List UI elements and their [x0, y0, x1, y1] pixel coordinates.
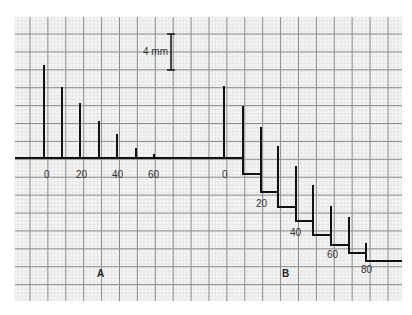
tick-label-b-80: 80	[361, 265, 372, 275]
tick-label-b-0: 0	[222, 170, 228, 180]
tick-label-a-0: 0	[44, 170, 50, 180]
figure: 4 mm 0 20 40 60 A 0 20 40 60 80 B	[0, 0, 412, 315]
tick-label-a-20: 20	[76, 170, 87, 180]
tick-label-a-60: 60	[148, 170, 159, 180]
tick-label-b-40: 40	[290, 228, 301, 238]
grid-paper	[0, 0, 412, 315]
tick-label-a-40: 40	[112, 170, 123, 180]
panel-label-b: B	[282, 269, 289, 279]
tick-label-b-20: 20	[256, 199, 267, 209]
panel-label-a: A	[97, 269, 104, 279]
scale-bar-label: 4 mm	[143, 47, 168, 57]
tick-label-b-60: 60	[327, 250, 338, 260]
